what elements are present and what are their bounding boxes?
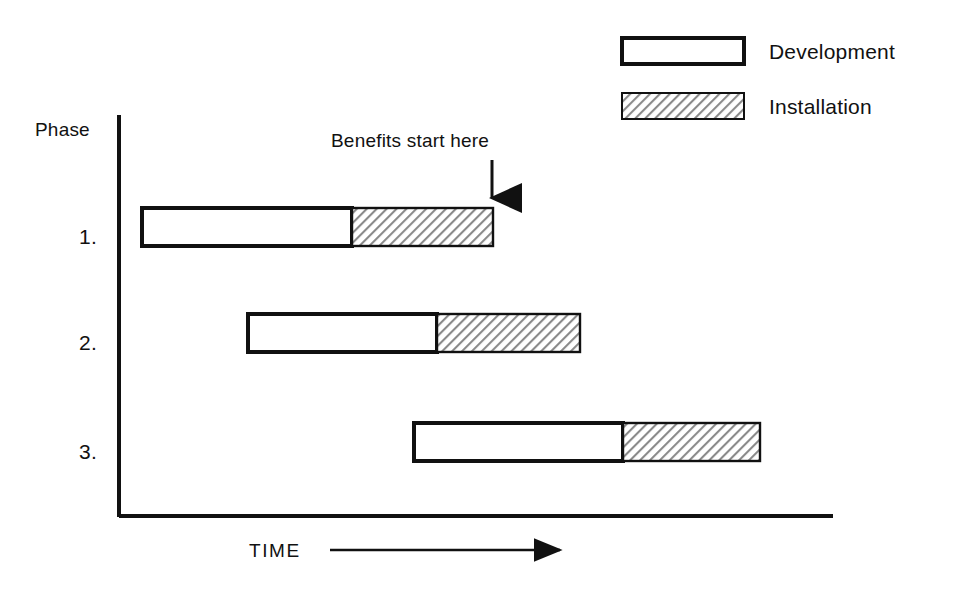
chart-canvas xyxy=(0,0,956,589)
bar-installation-phase-2 xyxy=(437,314,580,352)
legend-swatch-installation xyxy=(622,93,744,119)
bar-installation-phase-3 xyxy=(623,423,760,461)
bar-row-phase-3 xyxy=(414,423,760,461)
legend-swatch-development xyxy=(622,38,744,64)
y-tick-label-3: 3. xyxy=(79,441,97,462)
benefits-annotation-label: Benefits start here xyxy=(331,131,489,150)
legend-label-installation: Installation xyxy=(769,96,872,117)
x-axis-title: TIME xyxy=(249,541,301,560)
bar-development-phase-3 xyxy=(414,423,623,461)
bar-installation-phase-1 xyxy=(352,208,493,246)
legend-label-development: Development xyxy=(769,41,895,62)
y-axis-title: Phase xyxy=(35,120,90,139)
bar-development-phase-2 xyxy=(248,314,437,352)
gantt-chart-figure: Phase 1. 2. 3. Benefits start here TIME … xyxy=(0,0,956,589)
y-tick-label-1: 1. xyxy=(79,226,97,247)
bar-development-phase-1 xyxy=(142,208,352,246)
bar-row-phase-1 xyxy=(142,208,493,246)
bar-row-phase-2 xyxy=(248,314,580,352)
y-tick-label-2: 2. xyxy=(79,332,97,353)
